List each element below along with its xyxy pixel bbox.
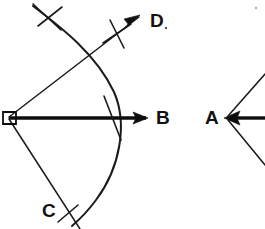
- label-b: B: [156, 107, 170, 128]
- canvas-background: [0, 0, 265, 229]
- geometric-construction-figure: D B C A: [0, 0, 265, 229]
- label-d: D: [150, 10, 164, 31]
- label-d-trailing-dot: [165, 27, 167, 29]
- label-c: C: [42, 200, 56, 221]
- label-a: A: [205, 107, 219, 128]
- scan-speck: [255, 7, 258, 10]
- diagram-canvas: D B C A: [0, 0, 265, 229]
